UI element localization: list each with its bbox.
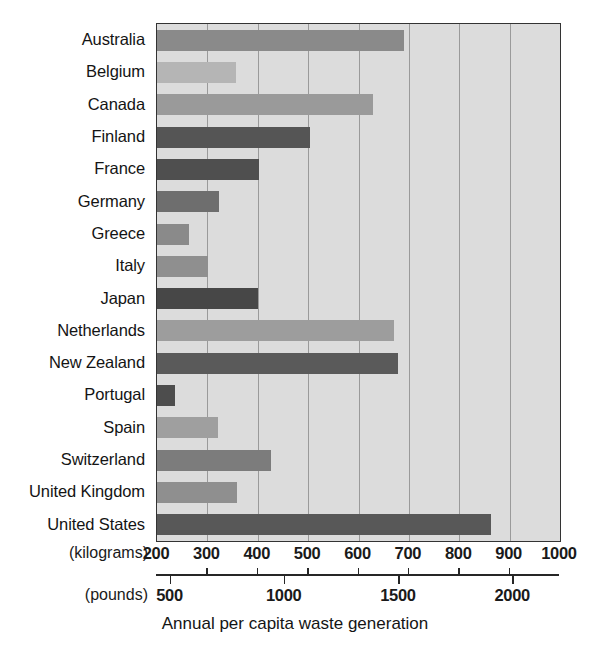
- category-label-switzerland: Switzerland: [61, 443, 145, 475]
- kg-tick-label-300: 300: [193, 544, 220, 563]
- bar-australia: [157, 30, 404, 51]
- bar-finland: [157, 127, 310, 148]
- pounds-axis: (pounds) 500100015002000: [0, 568, 590, 610]
- pounds-axis-kg-tick-400: [257, 568, 259, 575]
- category-label-new-zealand: New Zealand: [49, 346, 145, 378]
- bar-united-states: [157, 514, 491, 535]
- kg-tick-label-1000: 1000: [541, 544, 577, 563]
- category-axis-labels: AustraliaBelgiumCanadaFinlandFranceGerma…: [0, 23, 151, 540]
- bars-layer: [157, 24, 560, 541]
- bar-belgium: [157, 62, 236, 83]
- pounds-tick-1500: [398, 576, 400, 584]
- waste-generation-bar-chart: AustraliaBelgiumCanadaFinlandFranceGerma…: [0, 0, 590, 653]
- bar-spain: [157, 417, 218, 438]
- bar-canada: [157, 94, 373, 115]
- pounds-tick-1000: [284, 576, 286, 584]
- bar-switzerland: [157, 450, 271, 471]
- category-label-united-kingdom: United Kingdom: [29, 475, 145, 507]
- category-label-united-states: United States: [47, 508, 145, 540]
- category-label-japan: Japan: [101, 282, 145, 314]
- bar-greece: [157, 224, 189, 245]
- category-label-portugal: Portugal: [84, 378, 145, 410]
- kg-tick-label-400: 400: [243, 544, 270, 563]
- kilograms-axis: (kilograms) 2003004005006007008009001000: [0, 542, 590, 566]
- bar-germany: [157, 191, 219, 212]
- plot-area: [156, 23, 561, 542]
- pounds-tick-500: [170, 576, 172, 584]
- pounds-tick-label-500: 500: [156, 586, 183, 605]
- category-label-australia: Australia: [82, 23, 145, 55]
- pounds-axis-kg-tick-500: [307, 568, 309, 575]
- pounds-axis-kg-tick-600: [358, 568, 360, 575]
- chart-caption: Annual per capita waste generation: [0, 614, 590, 634]
- pounds-axis-kg-tick-700: [408, 568, 410, 575]
- kg-tick-label-500: 500: [294, 544, 321, 563]
- category-label-italy: Italy: [115, 249, 145, 281]
- pounds-axis-line: [156, 574, 559, 576]
- category-label-finland: Finland: [92, 120, 145, 152]
- kg-tick-label-600: 600: [344, 544, 371, 563]
- pounds-axis-kg-tick-800: [458, 568, 460, 575]
- bar-italy: [157, 256, 208, 277]
- bar-japan: [157, 288, 258, 309]
- bar-portugal: [157, 385, 175, 406]
- category-label-canada: Canada: [88, 88, 145, 120]
- pounds-tick-label-1500: 1500: [380, 586, 416, 605]
- bar-new-zealand: [157, 353, 398, 374]
- bar-netherlands: [157, 320, 394, 341]
- bar-france: [157, 159, 259, 180]
- pounds-tick-label-1000: 1000: [266, 586, 302, 605]
- pounds-tick-2000: [512, 576, 514, 584]
- kg-tick-label-800: 800: [445, 544, 472, 563]
- kg-tick-label-200: 200: [143, 544, 170, 563]
- pounds-unit-label: (pounds): [30, 586, 148, 604]
- category-label-france: France: [94, 152, 145, 184]
- category-label-spain: Spain: [103, 411, 145, 443]
- kg-tick-label-900: 900: [495, 544, 522, 563]
- category-label-germany: Germany: [78, 185, 145, 217]
- bar-united-kingdom: [157, 482, 237, 503]
- pounds-tick-label-2000: 2000: [494, 586, 530, 605]
- kg-tick-label-700: 700: [395, 544, 422, 563]
- category-label-netherlands: Netherlands: [57, 314, 145, 346]
- pounds-axis-kg-tick-300: [206, 568, 208, 575]
- category-label-belgium: Belgium: [86, 55, 145, 87]
- pounds-axis-kg-tick-900: [509, 568, 511, 575]
- kilograms-unit-label: (kilograms): [30, 544, 148, 562]
- category-label-greece: Greece: [91, 217, 145, 249]
